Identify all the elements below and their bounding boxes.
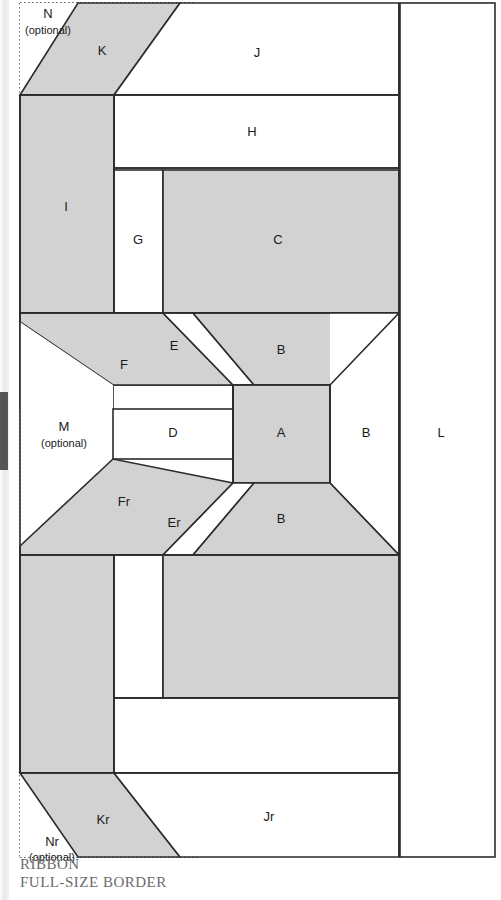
label-B-bottom: B [277, 511, 286, 526]
label-N-note: (optional) [25, 24, 71, 36]
label-M: M [59, 419, 70, 434]
label-Kr: Kr [97, 812, 111, 827]
piece-Cr [163, 555, 399, 698]
scan-edge-dark-artifact [0, 392, 8, 470]
quilt-block-diagram: N (optional) K J I H G C F E B M (option… [0, 0, 501, 900]
label-K: K [98, 43, 107, 58]
label-F: F [120, 357, 128, 372]
piece-Hr [114, 698, 399, 773]
label-Nr: Nr [45, 834, 59, 849]
label-N: N [43, 6, 52, 21]
caption-subtitle: FULL-SIZE BORDER [20, 874, 167, 891]
label-M-note: (optional) [41, 437, 87, 449]
label-L: L [437, 425, 444, 440]
label-B-top: B [277, 342, 286, 357]
label-Fr: Fr [118, 494, 131, 509]
piece-L [400, 3, 495, 857]
piece-Gr [114, 555, 163, 698]
piece-Ir [20, 555, 114, 773]
label-H: H [247, 124, 256, 139]
label-D: D [168, 425, 177, 440]
label-Er: Er [168, 515, 182, 530]
label-E: E [170, 338, 179, 353]
diagram-canvas: N (optional) K J I H G C F E B M (option… [0, 0, 501, 900]
label-A: A [277, 425, 286, 440]
label-Jr: Jr [264, 809, 276, 824]
label-C: C [273, 232, 282, 247]
label-J: J [254, 45, 261, 60]
caption-title: RIBBON [20, 856, 80, 873]
label-I: I [64, 199, 68, 214]
label-G: G [133, 232, 143, 247]
label-B-right: B [362, 425, 371, 440]
